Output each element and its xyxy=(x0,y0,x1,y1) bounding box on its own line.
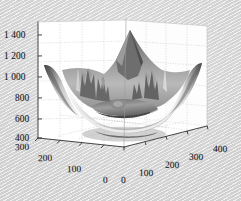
figure-3d-surface-plot: 1 400 1 200 1 000 800 600 400 300 200 10… xyxy=(0,0,241,201)
y-tick-label-0: 0 xyxy=(103,176,108,185)
y-tick-label-200: 200 xyxy=(38,154,53,164)
z-tick-label-600: 600 xyxy=(15,115,29,124)
x-tick-label-100: 100 xyxy=(139,169,154,179)
z-tick-label-1200: 1 200 xyxy=(4,52,26,61)
z-tick-label-1400: 1 400 xyxy=(4,31,26,40)
y-tick-label-300: 300 xyxy=(15,143,30,153)
y-tick-label-100: 100 xyxy=(67,165,82,175)
x-tick-label-0: 0 xyxy=(121,176,126,185)
z-tick-label-800: 800 xyxy=(15,94,29,103)
x-tick-label-200: 200 xyxy=(165,161,180,171)
x-tick-label-400: 400 xyxy=(213,145,228,155)
surface-plot-canvas xyxy=(0,0,241,201)
x-tick-label-300: 300 xyxy=(189,153,204,163)
z-tick-label-1000: 1 000 xyxy=(4,73,26,82)
